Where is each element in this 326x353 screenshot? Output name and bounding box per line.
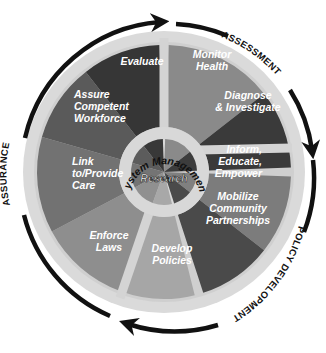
- phase-label-assurance: ASSURANCE: [0, 141, 12, 207]
- label-diagnose-investigate: Diagnose& Investigate: [215, 89, 281, 113]
- label-monitor-health: MonitorHealth: [193, 48, 232, 72]
- arrow-policy-to-assurance: [304, 160, 314, 232]
- label-develop-policies: DevelopPolicies: [152, 242, 193, 266]
- label-evaluate: Evaluate: [120, 55, 163, 67]
- research-label: Research: [140, 172, 187, 184]
- essential-services-wheel: ASSESSMENT POLICY DEVELOPMENT ASSURANCE …: [0, 0, 326, 353]
- arrow-policy-to-assurance-lower: [128, 324, 218, 331]
